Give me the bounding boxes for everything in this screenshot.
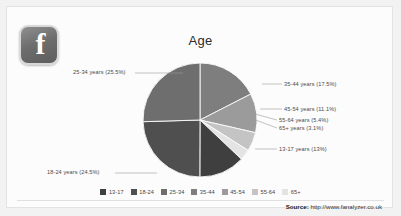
source-label: Source: xyxy=(286,203,309,210)
pie-label-35-44: 35-44 years (17.5%) xyxy=(284,81,337,87)
legend-swatch-icon xyxy=(222,189,228,195)
legend-item-35-44[interactable]: 35-44 xyxy=(191,189,214,195)
source-url[interactable]: http://www.fanalyzer.co.uk xyxy=(310,203,382,210)
pie-label-18-24: 18-24 years (24.5%) xyxy=(47,169,100,175)
legend-label: 35-44 xyxy=(200,189,215,195)
pie-label-55-64: 55-64 years (5.4%) xyxy=(279,117,328,123)
source-footer: Source: http://www.fanalyzer.co.uk xyxy=(286,203,382,210)
chart-card: f Age 25-34 years (25.5%) 18-24 years (2… xyxy=(6,6,393,208)
legend-label: 18-24 xyxy=(139,189,154,195)
legend-label: 45-54 xyxy=(230,189,245,195)
pie-slice-25-34[interactable] xyxy=(143,63,200,122)
legend-item-18-24[interactable]: 18-24 xyxy=(131,189,154,195)
legend-item-13-17[interactable]: 13-17 xyxy=(100,189,123,195)
leader-line-55-64 xyxy=(255,114,277,120)
legend-swatch-icon xyxy=(100,189,106,195)
pie-label-65-plus: 65+ years (3.1%) xyxy=(279,125,323,131)
legend-item-55-64[interactable]: 55-64 xyxy=(252,189,275,195)
legend-item-65-plus[interactable]: 65+ xyxy=(282,189,300,195)
footer-divider xyxy=(17,200,384,201)
legend-swatch-icon xyxy=(252,189,258,195)
legend-label: 13-17 xyxy=(109,189,124,195)
pie-label-45-54: 45-54 years (11.1%) xyxy=(284,106,336,112)
legend-label: 65+ xyxy=(291,189,301,195)
pie-slice-18-24[interactable] xyxy=(143,120,200,177)
legend-item-25-34[interactable]: 25-34 xyxy=(161,189,184,195)
legend-swatch-icon xyxy=(161,189,167,195)
pie-label-25-34: 25-34 years (25.5%) xyxy=(73,69,126,75)
legend-item-45-54[interactable]: 45-54 xyxy=(222,189,245,195)
legend-label: 55-64 xyxy=(260,189,275,195)
pie-slice-group xyxy=(143,63,257,177)
chart-legend: 13-1718-2425-3435-4445-5455-6465+ xyxy=(7,189,394,195)
legend-swatch-icon xyxy=(131,189,137,195)
legend-swatch-icon xyxy=(191,189,197,195)
legend-swatch-icon xyxy=(282,189,288,195)
legend-label: 25-34 xyxy=(170,189,185,195)
pie-label-13-17: 13-17 years (13%) xyxy=(279,146,327,152)
